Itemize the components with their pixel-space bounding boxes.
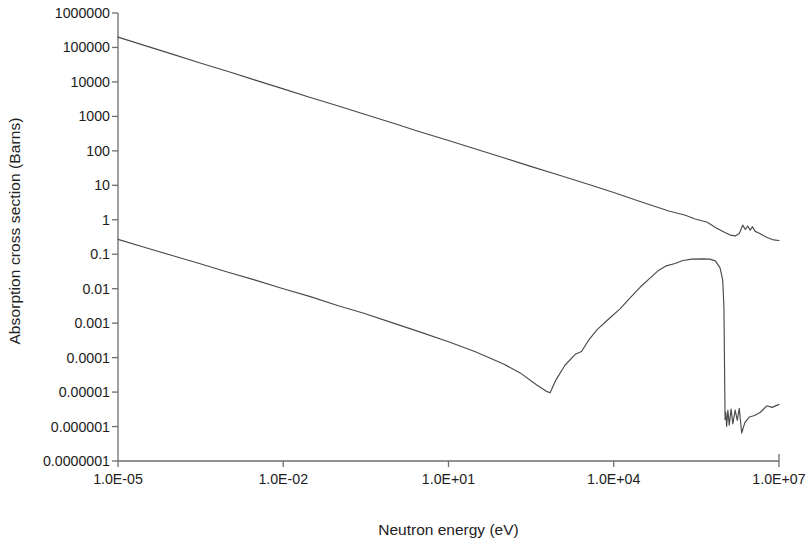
- y-tick-label: 0.00001: [59, 385, 110, 399]
- y-axis-tick-labels: 10000001000001000010001001010.10.010.001…: [18, 0, 110, 552]
- series-line-upper-curve: [118, 37, 779, 240]
- y-tick-label: 100: [86, 144, 110, 158]
- y-tick-label: 1000: [78, 109, 110, 123]
- x-tick-label: 1.0E+04: [587, 472, 640, 486]
- y-tick-label: 1: [102, 213, 110, 227]
- y-tick-label: 0.0000001: [43, 454, 110, 468]
- x-tick-label: 1.0E+07: [752, 472, 805, 486]
- y-tick-label: 10: [94, 178, 110, 192]
- axis-lines: [118, 13, 779, 461]
- x-tick-label: 1.0E-02: [258, 472, 308, 486]
- y-tick-label: 0.0001: [67, 351, 110, 365]
- y-tick-label: 0.000001: [51, 419, 110, 433]
- x-tick-label: 1.0E-05: [93, 472, 143, 486]
- y-tick-label: 100000: [63, 40, 110, 54]
- y-tick-label: 0.01: [82, 282, 110, 296]
- y-tick-label: 0.1: [90, 247, 110, 261]
- y-tick-label: 0.001: [74, 316, 110, 330]
- axis-tick-marks: [112, 13, 779, 467]
- y-tick-label: 10000: [71, 75, 110, 89]
- y-tick-label: 1000000: [55, 6, 110, 20]
- series-line-lower-curve: [118, 239, 779, 433]
- x-axis-title: Neutron energy (eV): [118, 521, 779, 539]
- x-tick-label: 1.0E+01: [422, 472, 475, 486]
- data-series-layer: [118, 37, 779, 433]
